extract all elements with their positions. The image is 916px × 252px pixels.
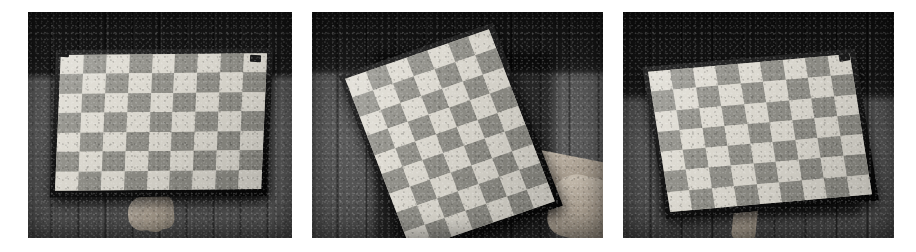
checker-square <box>718 84 744 106</box>
checker-square <box>192 170 216 190</box>
checker-square <box>779 180 805 202</box>
checker-square <box>242 92 266 112</box>
checker-square <box>175 54 199 74</box>
checker-square <box>216 150 240 170</box>
checker-square <box>831 74 857 96</box>
checker-square <box>821 156 847 178</box>
checker-square <box>129 54 153 74</box>
checker-square <box>197 73 221 93</box>
checker-square <box>722 104 748 126</box>
checker-square <box>766 100 792 122</box>
checker-square <box>169 170 193 190</box>
checker-square <box>239 150 263 170</box>
checker-square <box>808 76 834 98</box>
checker-square <box>840 134 866 156</box>
checker-square <box>798 158 824 180</box>
checker-square <box>241 111 265 131</box>
checker-square <box>783 58 809 80</box>
checker-square <box>683 148 709 170</box>
checker-square <box>734 184 760 206</box>
checker-square <box>82 74 106 94</box>
checker-square <box>57 113 81 133</box>
checker-square <box>147 170 171 190</box>
checker-square <box>834 94 860 116</box>
checker-square <box>846 174 872 196</box>
checker-square <box>79 132 103 152</box>
checker-square <box>103 113 127 133</box>
checker-square <box>763 80 789 102</box>
checker-square <box>152 54 176 74</box>
panel-1 <box>28 12 292 238</box>
checker-square <box>709 166 735 188</box>
knuckle-shape <box>127 194 175 231</box>
checker-square <box>56 152 80 172</box>
checker-square <box>757 182 783 204</box>
checker-square <box>824 176 850 198</box>
checker-square <box>83 55 107 75</box>
scene-2 <box>312 12 603 238</box>
checker-square <box>651 90 677 112</box>
checker-square <box>744 102 770 124</box>
checker-square <box>57 132 81 152</box>
checker-square <box>81 93 105 113</box>
checker-square <box>731 164 757 186</box>
panel-2 <box>312 12 603 238</box>
checker-square <box>195 112 219 132</box>
checker-square <box>126 112 150 132</box>
checker-square <box>747 122 773 144</box>
checker-square <box>194 131 218 151</box>
checker-square <box>171 131 195 151</box>
checker-square <box>805 56 831 78</box>
checker-square <box>174 73 198 93</box>
checker-square <box>78 171 102 191</box>
checker-square <box>101 171 125 191</box>
checker-square <box>754 162 780 184</box>
calibration-board-3 <box>648 54 872 212</box>
checker-square <box>172 112 196 132</box>
checker-square <box>814 116 840 138</box>
checker-square <box>661 150 687 172</box>
checker-square <box>218 112 242 132</box>
panel-3 <box>623 12 894 238</box>
checker-square <box>59 74 83 94</box>
checker-square <box>693 66 719 88</box>
checker-square <box>795 138 821 160</box>
checker-square <box>696 86 722 108</box>
checker-square <box>818 136 844 158</box>
checker-square <box>127 93 151 113</box>
checker-square <box>837 114 863 136</box>
checkerboard-grid <box>648 54 872 212</box>
checker-square <box>217 131 241 151</box>
checker-square <box>677 108 703 130</box>
checker-square <box>106 54 130 74</box>
checker-square <box>58 94 82 114</box>
checker-square <box>658 130 684 152</box>
checker-square <box>240 131 264 151</box>
checker-square <box>60 55 84 75</box>
checker-square <box>102 132 126 152</box>
checker-square <box>689 188 715 210</box>
checker-square <box>773 140 799 162</box>
checker-square <box>151 73 175 93</box>
checker-square <box>238 170 262 190</box>
checker-square <box>105 74 129 94</box>
checker-square <box>715 64 741 86</box>
checker-square <box>843 154 869 176</box>
checker-square <box>664 170 690 192</box>
checker-square <box>219 92 243 112</box>
checker-square <box>654 110 680 132</box>
checker-square <box>170 151 194 171</box>
figure-root <box>0 0 916 252</box>
scene-1 <box>28 12 292 238</box>
checker-square <box>776 160 802 182</box>
checker-square <box>792 118 818 140</box>
checker-square <box>686 168 712 190</box>
checker-square <box>786 78 812 100</box>
board-clip-right <box>250 55 261 62</box>
checker-square <box>738 62 764 84</box>
checker-square <box>125 132 149 152</box>
checker-square <box>680 128 706 150</box>
checker-square <box>648 70 674 92</box>
checker-square <box>712 186 738 208</box>
checker-square <box>789 98 815 120</box>
